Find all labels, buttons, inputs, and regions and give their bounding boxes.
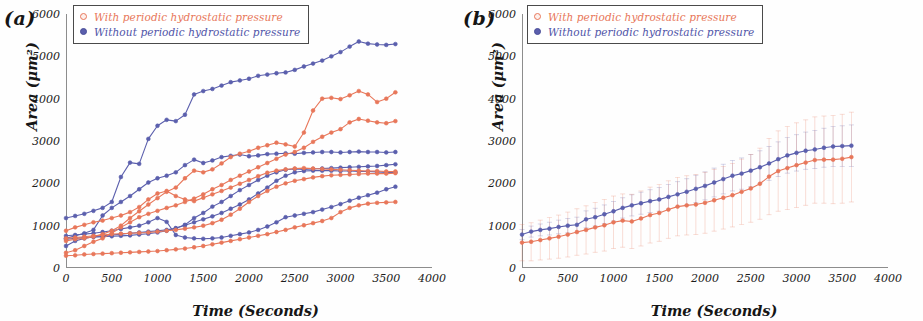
data-point — [275, 185, 279, 189]
data-point — [229, 155, 233, 159]
data-point — [265, 161, 269, 165]
data-point — [119, 175, 123, 179]
data-point — [311, 167, 315, 171]
data-point — [211, 192, 215, 196]
data-point — [247, 200, 251, 204]
data-point — [137, 250, 141, 254]
data-point — [357, 172, 361, 176]
data-point — [156, 176, 160, 180]
data-point — [156, 124, 160, 128]
data-point — [394, 171, 398, 175]
data-point — [137, 215, 141, 219]
data-point — [357, 196, 361, 200]
data-point — [311, 151, 315, 155]
data-point — [183, 113, 187, 117]
data-point — [137, 224, 141, 228]
data-point — [348, 168, 352, 172]
data-point — [375, 201, 379, 205]
data-point — [128, 194, 132, 198]
data-point — [612, 220, 616, 224]
data-point — [329, 167, 333, 171]
data-point — [146, 137, 150, 141]
data-point — [119, 225, 123, 229]
data-point — [813, 148, 817, 152]
data-point — [211, 187, 215, 191]
data-point — [685, 203, 689, 207]
data-point — [348, 93, 352, 97]
data-point — [110, 206, 114, 210]
data-point — [174, 194, 178, 198]
y-tick-label: 6000 — [488, 8, 516, 21]
legend-label-without: Without periodic hydrostatic pressure — [548, 26, 754, 38]
data-point — [831, 158, 835, 162]
data-point — [201, 89, 205, 93]
data-point — [174, 186, 178, 190]
data-point — [201, 224, 205, 228]
data-point — [275, 141, 279, 145]
x-tick-label: 2000 — [691, 272, 719, 285]
data-point — [238, 79, 242, 83]
data-point — [293, 167, 297, 171]
data-point — [339, 50, 343, 54]
data-point — [256, 194, 260, 198]
data-point — [630, 203, 634, 207]
data-point — [229, 194, 233, 198]
data-point — [183, 247, 187, 251]
data-point — [685, 190, 689, 194]
x-tick-label: 1000 — [600, 272, 628, 285]
data-series — [64, 166, 397, 232]
data-point — [192, 245, 196, 249]
data-point — [648, 213, 652, 217]
data-point — [146, 220, 150, 224]
data-point — [694, 203, 698, 207]
data-point — [119, 232, 123, 236]
y-tick-label: 5000 — [32, 50, 60, 63]
data-point — [220, 218, 224, 222]
data-point — [593, 215, 597, 219]
data-point — [548, 227, 552, 231]
data-point — [165, 220, 169, 224]
data-point — [265, 232, 269, 236]
data-point — [128, 250, 132, 254]
data-point — [229, 178, 233, 182]
data-point — [293, 150, 297, 154]
data-point — [394, 200, 398, 204]
data-point — [137, 205, 141, 209]
data-point — [146, 181, 150, 185]
x-tick-label: 4000 — [874, 272, 902, 285]
data-point — [64, 229, 68, 233]
data-point — [183, 227, 187, 231]
data-point — [284, 174, 288, 178]
x-tick-label: 3500 — [372, 272, 400, 285]
data-point — [375, 172, 379, 176]
data-point — [284, 228, 288, 232]
data-point — [320, 219, 324, 223]
data-point — [822, 146, 826, 150]
data-point — [265, 171, 269, 175]
data-point — [211, 167, 215, 171]
data-point — [156, 216, 160, 220]
data-point — [302, 131, 306, 135]
data-point — [101, 219, 105, 223]
data-point — [183, 236, 187, 240]
data-point — [302, 166, 306, 170]
data-point — [275, 220, 279, 224]
data-point — [238, 232, 242, 236]
data-point — [92, 209, 96, 213]
data-point — [302, 146, 306, 150]
data-point — [156, 192, 160, 196]
data-point — [128, 220, 132, 224]
x-tick-label: 3500 — [828, 272, 856, 285]
data-point — [384, 187, 388, 191]
data-point — [785, 153, 789, 157]
data-point — [119, 214, 123, 218]
y-tick-label: 3000 — [488, 135, 516, 148]
data-point — [840, 144, 844, 148]
data-point — [201, 161, 205, 165]
data-point — [128, 225, 132, 229]
data-point — [64, 236, 68, 240]
data-point — [73, 225, 77, 229]
data-point — [676, 192, 680, 196]
data-point — [201, 170, 205, 174]
data-point — [384, 172, 388, 176]
